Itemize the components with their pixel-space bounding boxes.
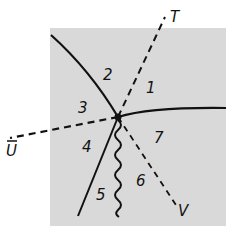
region-label-2: 2 — [103, 66, 113, 84]
axis-label-v: V — [178, 202, 190, 220]
phase-diagram: T U V 1 2 3 4 5 6 7 — [0, 0, 233, 239]
region-label-3: 3 — [78, 99, 88, 117]
diagram-background — [50, 28, 226, 226]
region-label-5: 5 — [96, 186, 106, 204]
region-label-6: 6 — [136, 172, 146, 190]
axis-label-t: T — [170, 8, 181, 26]
junction-point — [115, 114, 122, 121]
region-label-4: 4 — [82, 138, 92, 156]
region-label-7: 7 — [154, 129, 164, 147]
region-label-1: 1 — [146, 79, 156, 97]
axis-label-u: U — [6, 142, 17, 160]
